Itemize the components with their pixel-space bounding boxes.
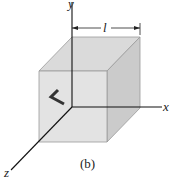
- z-axis-label: z: [3, 165, 9, 179]
- cube-diagram: y x z l (b): [0, 0, 172, 179]
- figure-caption: (b): [80, 156, 95, 171]
- x-axis-label: x: [162, 99, 169, 114]
- dimension-label: l: [103, 20, 107, 35]
- diagram-canvas: y x z l (b): [0, 0, 172, 179]
- y-axis-label: y: [66, 0, 74, 11]
